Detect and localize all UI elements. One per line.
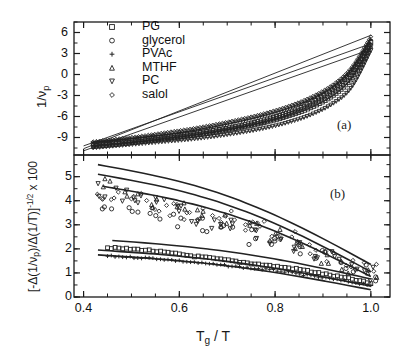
ytick-label: 4 xyxy=(46,193,72,207)
legend-item-pg: PG xyxy=(142,19,160,33)
legend-item-pc: PC xyxy=(142,73,159,87)
figure-container: -9-6-3036 012345 0.40.60.81.0 1/νp [-Δ(1… xyxy=(0,0,410,354)
ytick-label: 1 xyxy=(46,265,72,279)
xlabel: Tg / T xyxy=(196,328,230,346)
legend-item-salol: salol xyxy=(142,87,168,101)
ytick-label: 5 xyxy=(46,169,72,183)
xtick-label: 0.8 xyxy=(258,301,292,315)
xtick-label: 0.6 xyxy=(162,301,196,315)
legend-item-glycerol: glycerol xyxy=(142,33,185,47)
ytick-label: 3 xyxy=(42,46,68,60)
panel-b-label: (b) xyxy=(330,186,345,202)
ytick-label: 6 xyxy=(42,25,68,39)
ytick-label: 0 xyxy=(42,67,68,81)
xtick-label: 0.4 xyxy=(67,301,101,315)
panel-b-ylabel: [-Δ(1/νp)/Δ(1/T)]-1/2 x 100 xyxy=(26,161,41,292)
legend-item-pvac: PVAc xyxy=(142,46,172,60)
ytick-label: -6 xyxy=(42,109,68,123)
panel-a-label: (a) xyxy=(337,117,351,133)
panel-a-ylabel: 1/νp xyxy=(34,85,51,108)
legend-item-mthf: MTHF xyxy=(142,60,177,74)
panel-b-data xyxy=(95,165,379,290)
ytick-label: -9 xyxy=(42,130,68,144)
panel-a-data xyxy=(84,35,373,151)
ytick-label: 2 xyxy=(46,241,72,255)
xtick-label: 1.0 xyxy=(354,301,388,315)
ytick-label: 3 xyxy=(46,217,72,231)
